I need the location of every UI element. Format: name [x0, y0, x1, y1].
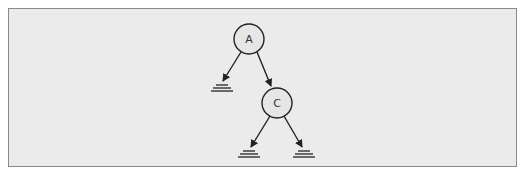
node-label-a: A — [245, 33, 253, 46]
node-label-c: C — [273, 97, 281, 110]
tree-node-c: C — [262, 88, 292, 118]
tree-node-a: A — [234, 24, 264, 54]
edge-C-to-null-left — [251, 116, 270, 147]
null-pointer-icon — [238, 151, 260, 157]
null-pointer-icon — [293, 151, 315, 157]
edge-C-to-null-right — [284, 116, 302, 147]
null-pointer-icon — [211, 85, 233, 91]
edge-A-to-C — [257, 52, 271, 86]
edge-A-to-null — [223, 52, 241, 81]
binary-tree-diagram: A C — [0, 0, 527, 179]
